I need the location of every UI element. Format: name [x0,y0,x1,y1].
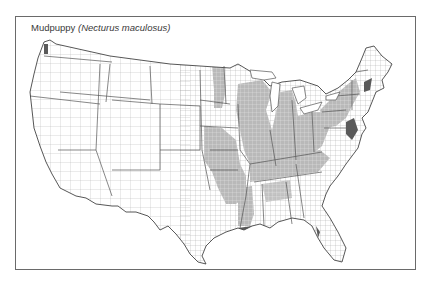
us-county-range-map [0,0,426,287]
map-title: Mudpuppy (Necturus maculosus) [31,22,170,33]
title-common-name: Mudpuppy [31,22,75,33]
title-scientific-name: (Necturus maculosus) [78,22,170,33]
